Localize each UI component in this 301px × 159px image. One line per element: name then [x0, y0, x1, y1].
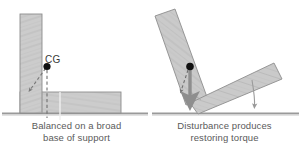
caption-balanced-line-2: base of support: [4, 132, 149, 144]
panel-balanced: [2, 14, 148, 120]
cg-label: CG: [45, 54, 60, 65]
cg-dot-right: [186, 63, 194, 71]
caption-disturbed: Disturbance produces restoring torque: [152, 120, 297, 143]
caption-balanced-line-1: Balanced on a broad: [4, 120, 149, 132]
vertical-plank-left: [20, 14, 42, 113]
caption-balanced: Balanced on a broad base of support: [4, 120, 149, 143]
caption-disturbed-line-2: restoring torque: [152, 132, 297, 144]
caption-disturbed-line-1: Disturbance produces: [152, 120, 297, 132]
panel-disturbed: [152, 9, 299, 115]
